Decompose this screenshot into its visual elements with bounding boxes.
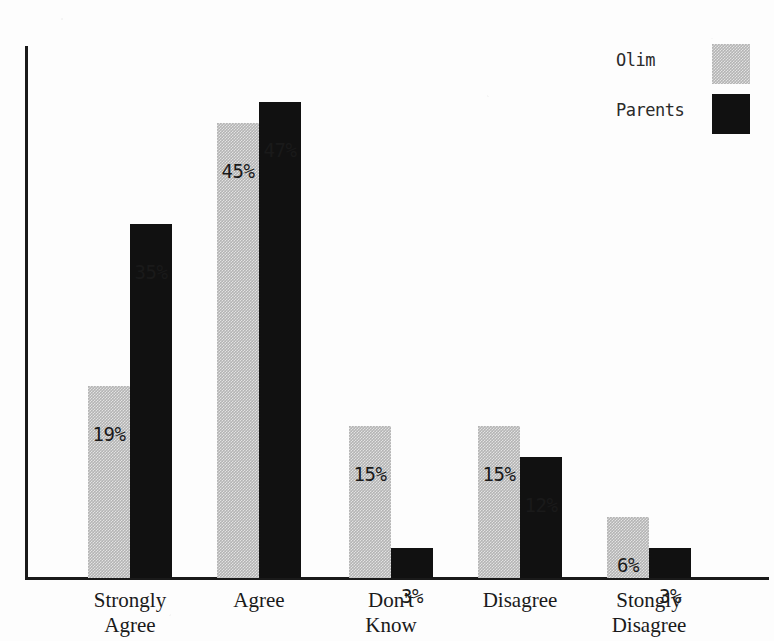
legend-label-parents: Parents <box>616 100 684 120</box>
bar-value-label-parents-3: 12% <box>525 494 558 516</box>
bar-value-label-olim-4: 6% <box>617 554 639 576</box>
bar-parents-2 <box>391 548 433 578</box>
legend-entry-olim: Olim <box>616 44 766 94</box>
bar-parents-3 <box>520 457 562 578</box>
legend-label-olim: Olim <box>616 50 655 70</box>
bar-value-label-olim-0: 19% <box>93 423 126 445</box>
bar-value-label-parents-1: 47% <box>264 139 297 161</box>
bar-olim-1 <box>217 123 259 578</box>
legend-swatch-parents <box>712 94 750 134</box>
bar-value-label-parents-0: 35% <box>135 261 168 283</box>
bar-parents-1 <box>259 102 301 578</box>
chart-legend: Olim Parents <box>616 44 766 144</box>
bar-olim-3 <box>478 426 520 578</box>
bar-value-label-olim-1: 45% <box>222 160 255 182</box>
chart-page: 19%35%Strongly Agree45%47%Agree15%3%Don'… <box>0 0 774 641</box>
legend-swatch-olim <box>712 44 750 84</box>
bar-value-label-olim-2: 15% <box>354 463 387 485</box>
bar-olim-2 <box>349 426 391 578</box>
bar-parents-4 <box>649 548 691 578</box>
bar-value-label-olim-3: 15% <box>483 463 516 485</box>
legend-entry-parents: Parents <box>616 94 766 144</box>
bar-olim-0 <box>88 386 130 578</box>
x-axis-label-4: Stongly Disagree <box>567 588 731 638</box>
